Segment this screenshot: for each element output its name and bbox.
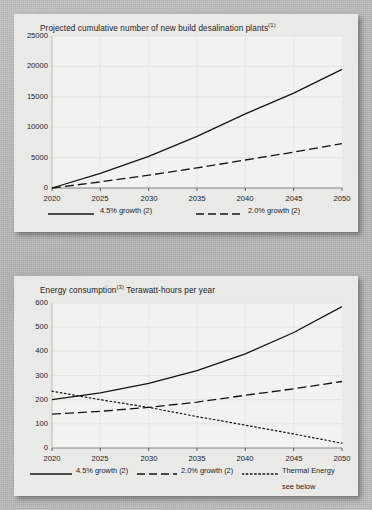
chart-1-xtick-2050: 2050 — [324, 194, 360, 203]
chart-2-legend-label-solid: 4.5% growth (2) — [76, 466, 128, 475]
chart-2-xtick-2040: 2040 — [227, 454, 263, 463]
chart-2-ytick-500: 500 — [14, 322, 48, 331]
chart-2-ytick-200: 200 — [14, 395, 48, 404]
chart-2-xtick-2025: 2025 — [82, 454, 118, 463]
chart-2-ytick-300: 300 — [14, 371, 48, 380]
chart-1-ytick-0: 0 — [14, 183, 48, 192]
chart-1-legend-swatch-solid — [48, 210, 94, 218]
chart-1-xtick-2035: 2035 — [179, 194, 215, 203]
chart-2-legend-label-thermal: Thermal Energy — [282, 466, 335, 475]
chart-1-legend: 4.5% growth (2) 2.0% growth (2) — [14, 210, 358, 224]
chart-1-ytick-20000: 20000 — [14, 61, 48, 70]
chart-2-xtickmarks — [52, 448, 342, 451]
chart-1-xtick-2030: 2030 — [131, 194, 167, 203]
chart-2-xtick-2020: 2020 — [34, 454, 70, 463]
chart-1-xtick-2025: 2025 — [82, 194, 118, 203]
chart-1-xtick-2045: 2045 — [276, 194, 312, 203]
chart-2-legend-swatch-dotted — [242, 470, 278, 478]
chart-2-legend-sublabel-thermal: see below — [282, 482, 315, 491]
chart-1-legend-label-solid: 4.5% growth (2) — [100, 206, 152, 215]
chart-2-legend-swatch-solid — [30, 470, 72, 478]
chart-2-svg — [14, 276, 358, 496]
chart-1-ytick-15000: 15000 — [14, 92, 48, 101]
chart-2-xtick-2030: 2030 — [131, 454, 167, 463]
chart-2-ytick-600: 600 — [14, 298, 48, 307]
chart-1-plot-area: 25000 20000 15000 10000 5000 0 2020 2025… — [14, 14, 358, 232]
chart-2-legend-label-dashed: 2.0% growth (2) — [181, 466, 233, 475]
chart-2-xtick-2035: 2035 — [179, 454, 215, 463]
chart-card-desalination-plants: Projected cumulative number of new build… — [14, 14, 358, 232]
chart-2-plot-area: 600 500 400 300 200 100 0 2020 2025 2030… — [14, 276, 358, 496]
chart-1-ytick-25000: 25000 — [14, 31, 48, 40]
chart-1-xtickmarks — [52, 188, 342, 191]
chart-2-xtick-2050: 2050 — [324, 454, 360, 463]
chart-2-ytick-400: 400 — [14, 346, 48, 355]
chart-1-legend-label-dashed: 2.0% growth (2) — [248, 206, 300, 215]
chart-1-ytick-5000: 5000 — [14, 153, 48, 162]
chart-1-ytick-10000: 10000 — [14, 122, 48, 131]
chart-2-ytick-100: 100 — [14, 419, 48, 428]
chart-card-energy-consumption: Energy consumption(3) Terawatt-hours per… — [14, 276, 358, 496]
chart-2-legend-swatch-dashed — [137, 470, 177, 478]
chart-1-xtick-2040: 2040 — [227, 194, 263, 203]
chart-1-legend-swatch-dashed — [196, 210, 242, 218]
chart-2-xtick-2045: 2045 — [276, 454, 312, 463]
chart-2-ytick-0: 0 — [14, 443, 48, 452]
chart-1-xtick-2020: 2020 — [34, 194, 70, 203]
chart-2-legend: 4.5% growth (2) 2.0% growth (2) Thermal … — [14, 470, 358, 494]
